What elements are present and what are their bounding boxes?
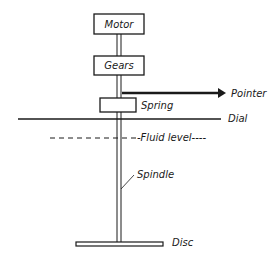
- spindle-callout: Spindle: [121, 169, 174, 189]
- viscometer-diagram: Motor Gears Pointer Spring Dial -Fluid l…: [0, 0, 279, 258]
- pointer-label: Pointer: [231, 88, 267, 99]
- motor-label: Motor: [105, 19, 135, 30]
- motor-box: Motor: [94, 14, 144, 34]
- gears-box: Gears: [94, 56, 144, 75]
- dial-line: Dial: [18, 113, 248, 124]
- disc-label: Disc: [172, 237, 194, 248]
- spring-box: Spring: [100, 98, 173, 112]
- fluid-level-line: -Fluid level----: [50, 132, 206, 143]
- gears-label: Gears: [104, 60, 133, 71]
- disc: Disc: [76, 237, 194, 248]
- spring-label: Spring: [141, 100, 173, 111]
- fluid-level-label: -Fluid level----: [137, 132, 206, 143]
- spindle-label: Spindle: [137, 169, 174, 180]
- pointer-arrow: Pointer: [122, 88, 267, 99]
- dial-label: Dial: [228, 113, 248, 124]
